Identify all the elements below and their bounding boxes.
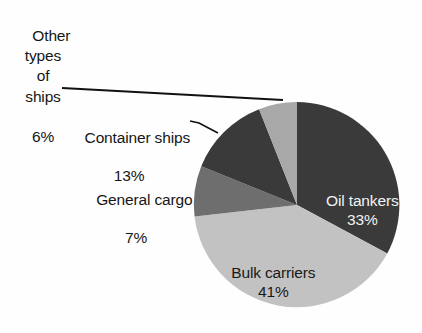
slice-label-bulk-carriers: Bulk carriers 41% bbox=[207, 244, 323, 321]
leader-line-other-types bbox=[62, 88, 283, 100]
slice-label-title: General cargo bbox=[96, 191, 192, 208]
slice-label-percent: 33% bbox=[347, 211, 378, 228]
slice-label-percent: 41% bbox=[258, 283, 289, 300]
slice-label-title: Other types of ships bbox=[25, 27, 70, 104]
slice-label-title: Bulk carriers bbox=[231, 264, 315, 281]
slice-label-percent: 7% bbox=[74, 229, 198, 248]
slice-label-title: Container ships bbox=[85, 129, 190, 146]
slice-label-oil-tankers: Oil tankers 33% bbox=[306, 172, 402, 249]
slice-label-title: Oil tankers bbox=[326, 192, 398, 209]
pie-chart-figure: Other types of ships 6% Container ships … bbox=[0, 0, 422, 333]
slice-label-general-cargo: General cargo 7% bbox=[74, 172, 198, 285]
